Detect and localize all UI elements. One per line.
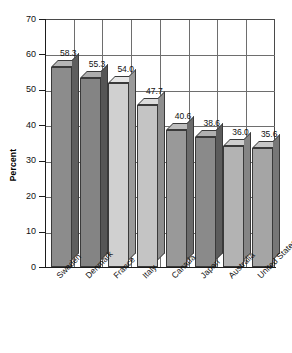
bar-front-face: [223, 146, 244, 267]
y-tick-60: [39, 54, 45, 55]
bar-front-face: [252, 148, 273, 267]
bar-sweden[interactable]: [51, 60, 72, 267]
bar-chart: Percent 706050403020100 58.355.354.047.7…: [0, 0, 292, 353]
bar-front-face: [166, 130, 187, 267]
y-tick-label-0: 0: [20, 263, 36, 272]
y-axis-title: Percent: [8, 137, 18, 193]
y-tick-label-10: 10: [20, 227, 36, 236]
bar-canada[interactable]: [166, 123, 187, 267]
y-tick-40: [39, 125, 45, 126]
y-tick-0: [39, 267, 45, 268]
bar-value-label: 58.3: [60, 49, 77, 58]
bar-front-face: [195, 137, 216, 267]
bar-side-face: [187, 116, 194, 260]
y-tick-50: [39, 90, 45, 91]
y-tick-label-40: 40: [20, 121, 36, 130]
bar-value-label: 38.6: [204, 119, 221, 128]
bar-value-label: 40.6: [175, 112, 192, 121]
bar-value-label: 47.7: [146, 87, 163, 96]
y-axis-line: [45, 19, 46, 267]
bar-front-face: [51, 67, 72, 267]
y-tick-10: [39, 232, 45, 233]
bar-side-face: [129, 69, 136, 260]
bar-japan[interactable]: [195, 130, 216, 267]
bar-side-face: [158, 91, 165, 260]
bar-front-face: [137, 105, 158, 267]
bar-australia[interactable]: [223, 139, 244, 267]
bar-value-label: 54.0: [117, 65, 134, 74]
bar-value-label: 36.0: [232, 128, 249, 137]
bar-side-face: [273, 134, 280, 260]
bar-front-face: [80, 78, 101, 267]
bar-side-face: [72, 53, 79, 260]
y-tick-label-50: 50: [20, 85, 36, 94]
bar-value-label: 35.6: [261, 130, 278, 139]
y-tick-20: [39, 196, 45, 197]
bar-italy[interactable]: [137, 98, 158, 267]
y-tick-label-30: 30: [20, 156, 36, 165]
bar-united-states[interactable]: [252, 141, 273, 267]
y-tick-70: [39, 19, 45, 20]
bar-side-face: [216, 123, 223, 260]
bar-value-label: 55.3: [89, 60, 106, 69]
bar-france[interactable]: [108, 76, 129, 267]
y-tick-30: [39, 161, 45, 162]
bar-side-face: [244, 132, 251, 260]
y-tick-label-70: 70: [20, 15, 36, 24]
y-tick-label-20: 20: [20, 192, 36, 201]
bar-side-face: [101, 64, 108, 260]
bar-denmark[interactable]: [80, 71, 101, 267]
y-tick-label-60: 60: [20, 50, 36, 59]
bar-front-face: [108, 83, 129, 267]
